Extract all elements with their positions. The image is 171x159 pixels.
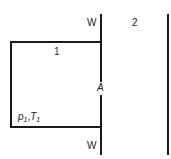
container-bottom [10,126,101,128]
aperture-label: A [97,83,104,93]
right-boundary [167,14,169,155]
wall-lower [100,95,102,155]
region-2-label: 2 [132,18,138,28]
wall-top-label: W [87,18,96,28]
temperature-subscript: 1 [36,116,40,123]
container-top [10,41,101,43]
region-1-label: 1 [54,47,60,57]
wall-bottom-label: W [87,141,96,151]
wall-upper [100,14,102,82]
container-left [10,41,12,128]
state-label: p1,T1 [18,112,40,125]
